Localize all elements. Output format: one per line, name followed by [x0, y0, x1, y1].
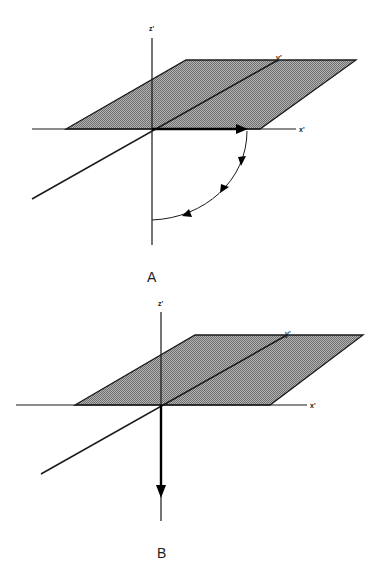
- y-label-a: y': [276, 54, 282, 62]
- panel-a: z' y' x' A: [32, 25, 356, 285]
- y-label-b: y': [285, 330, 291, 338]
- rotation-diagram: z' y' x' A z' y' x' B: [0, 0, 379, 577]
- xy-plane-b: [75, 335, 363, 405]
- rotation-arc: [152, 131, 247, 220]
- z-label-b: z': [158, 300, 164, 307]
- z-label-a: z': [149, 25, 155, 32]
- x-label-b: x': [310, 402, 316, 409]
- panel-caption-b: B: [157, 545, 166, 561]
- panel-b: z' y' x' B: [16, 300, 363, 561]
- arc-arrowhead-2: [220, 184, 229, 193]
- arc-arrowhead-1: [238, 156, 246, 166]
- arc-arrowhead-3: [182, 209, 192, 217]
- x-label-a: x': [299, 126, 305, 133]
- vector-arrowhead-b: [156, 485, 166, 498]
- panel-caption-a: A: [147, 269, 157, 285]
- xy-plane-a: [66, 60, 356, 129]
